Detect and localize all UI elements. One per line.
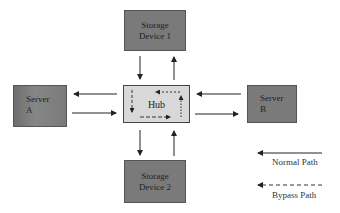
legend-normal-label: Normal Path — [272, 157, 318, 167]
server-b-node: Server B — [247, 85, 297, 123]
legend-bypass-label: Bypass Path — [272, 190, 316, 200]
storage2-label-line1: Storage — [141, 171, 169, 182]
serverB-label-line2: B — [260, 104, 296, 115]
storage-device-2-node: Storage Device 2 — [124, 160, 186, 203]
storage2-label-line2: Device 2 — [139, 182, 171, 193]
serverB-label-line1: Server — [260, 93, 296, 104]
